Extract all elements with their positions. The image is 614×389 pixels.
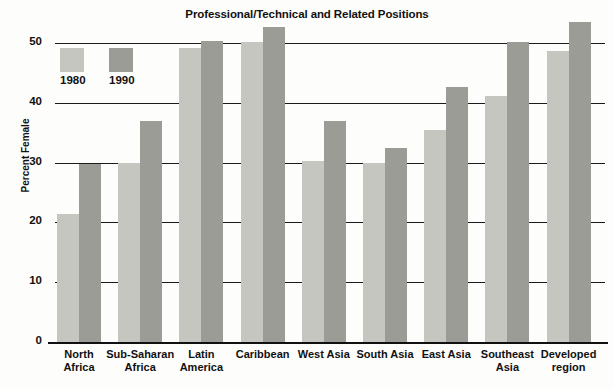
bar-1980-north-africa <box>57 214 79 342</box>
bar-1980-west-asia <box>302 161 324 342</box>
bar-1990-east-asia <box>446 87 468 342</box>
bar-1980-sub-saharan-africa <box>118 163 140 342</box>
category-label-line: America <box>165 361 237 374</box>
bar-1990-sub-saharan-africa <box>140 121 162 342</box>
category-label-developed-region: Developedregion <box>533 348 605 373</box>
bar-1980-developed-region <box>547 51 569 342</box>
legend-entry-1990[interactable]: 1990 <box>109 48 133 86</box>
bar-1980-south-asia <box>363 163 385 342</box>
chart-title: Professional/Technical and Related Posit… <box>0 8 614 20</box>
bar-1990-southeast-asia <box>507 42 529 342</box>
legend-swatch-1980 <box>60 48 84 72</box>
legend-swatch-1990 <box>109 48 133 72</box>
bar-1990-north-africa <box>79 164 101 342</box>
bar-1990-west-asia <box>324 121 346 342</box>
legend-label-1990: 1990 <box>109 74 133 86</box>
y-tick-label: 0 <box>8 334 42 346</box>
bar-chart: Professional/Technical and Related Posit… <box>0 0 614 389</box>
x-axis-baseline <box>48 342 608 344</box>
bar-1990-latin-america <box>201 41 223 342</box>
plot-area <box>55 43 605 342</box>
bar-1980-southeast-asia <box>485 96 507 342</box>
bar-1990-south-asia <box>385 148 407 342</box>
y-tick-label: 20 <box>8 214 42 226</box>
y-tick-label: 10 <box>8 274 42 286</box>
category-label-line: region <box>533 361 605 374</box>
bar-1980-latin-america <box>179 48 201 342</box>
legend-label-1980: 1980 <box>60 74 84 86</box>
legend-entry-1980[interactable]: 1980 <box>60 48 84 86</box>
y-tick-label: 40 <box>8 95 42 107</box>
bar-1990-caribbean <box>263 27 285 342</box>
bar-1980-caribbean <box>241 42 263 342</box>
y-tick-label: 50 <box>8 35 42 47</box>
category-label-line: Developed <box>533 348 605 361</box>
y-tick-label: 30 <box>8 155 42 167</box>
bar-1980-east-asia <box>424 130 446 342</box>
bar-1990-developed-region <box>569 22 591 342</box>
